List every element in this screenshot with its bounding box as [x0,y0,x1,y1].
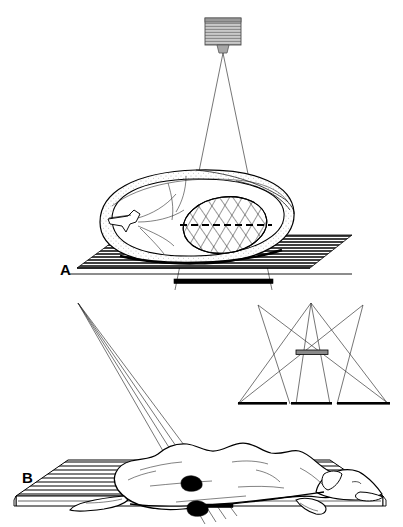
cassette-a-bar [174,279,273,284]
film-cassette-b [205,504,233,508]
figure-root: A [0,0,403,527]
lesion-marker-upper [181,476,202,491]
fulcrum-object-bar [296,350,328,355]
lesion-marker-lower [187,501,208,516]
cassette-b-bar [205,504,233,508]
film-cassette-a [174,279,273,284]
tube-collimator-neck [217,45,229,53]
radiography-figure: A [0,0,403,527]
film-center [291,402,332,405]
tube-housing-top [205,18,241,22]
film-right [337,402,390,405]
panel-label-a: A [60,261,71,278]
film-left [238,402,287,405]
panel-label-b: B [22,469,33,486]
